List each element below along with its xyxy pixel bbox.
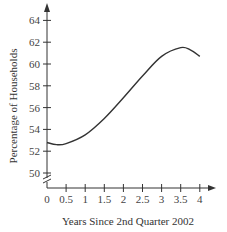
y-tick-label: 50 — [29, 167, 41, 179]
x-tick-label: 3 — [159, 193, 165, 205]
y-axis-arrow-icon — [44, 3, 50, 12]
y-tick-label: 64 — [29, 14, 41, 26]
y-axis-title: Percentage of Households — [7, 49, 19, 164]
y-tick-label: 56 — [29, 102, 41, 114]
chart: 5052545658606264 00.511.522.533.54 Years… — [0, 0, 227, 232]
y-tick-label: 62 — [29, 36, 40, 48]
x-tick-label: 1.5 — [97, 193, 111, 205]
x-tick-label: 0 — [44, 193, 50, 205]
y-tick-label: 52 — [29, 145, 40, 157]
series-line — [47, 47, 200, 145]
x-tick-label: 4 — [197, 193, 203, 205]
x-tick-label: 1 — [82, 193, 88, 205]
x-tick-label: 2 — [121, 193, 127, 205]
x-axis: 00.511.522.533.54 — [44, 184, 216, 205]
x-axis-arrow-icon — [208, 185, 216, 191]
y-tick-label: 60 — [29, 58, 41, 70]
x-tick-label: 0.5 — [59, 193, 73, 205]
y-axis: 5052545658606264 — [29, 3, 51, 188]
x-tick-label: 2.5 — [136, 193, 150, 205]
x-tick-label: 3.5 — [174, 193, 188, 205]
data-series — [47, 47, 200, 145]
x-axis-title: Years Since 2nd Quarter 2002 — [62, 215, 194, 227]
y-tick-label: 58 — [29, 80, 41, 92]
y-tick-label: 54 — [29, 123, 41, 135]
